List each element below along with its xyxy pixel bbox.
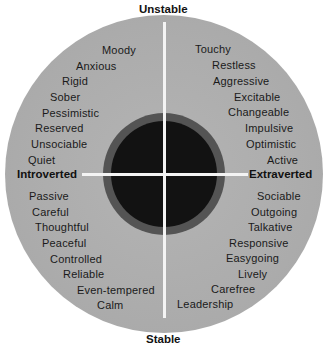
trait-excitable: Excitable bbox=[234, 91, 280, 104]
trait-quiet: Quiet bbox=[28, 154, 55, 167]
trait-active: Active bbox=[267, 154, 298, 167]
axis-label-stable: Stable bbox=[146, 333, 181, 346]
trait-touchy: Touchy bbox=[195, 43, 231, 56]
trait-carefree: Carefree bbox=[211, 283, 255, 296]
trait-sober: Sober bbox=[50, 91, 80, 104]
trait-reserved: Reserved bbox=[35, 122, 84, 135]
trait-outgoing: Outgoing bbox=[251, 206, 297, 219]
horizontal-axis-line bbox=[82, 173, 248, 176]
trait-controlled: Controlled bbox=[50, 253, 102, 266]
trait-responsive: Responsive bbox=[229, 237, 288, 250]
trait-rigid: Rigid bbox=[62, 75, 88, 88]
trait-calm: Calm bbox=[97, 299, 123, 312]
axis-label-extraverted: Extraverted bbox=[249, 168, 312, 181]
axis-label-introverted: Introverted bbox=[17, 168, 77, 181]
trait-even-tempered: Even-tempered bbox=[77, 284, 155, 297]
trait-leadership: Leadership bbox=[177, 298, 233, 311]
trait-sociable: Sociable bbox=[257, 190, 301, 203]
trait-pessimistic: Pessimistic bbox=[42, 107, 99, 120]
trait-thoughtful: Thoughtful bbox=[35, 221, 89, 234]
trait-changeable: Changeable bbox=[228, 106, 289, 119]
trait-lively: Lively bbox=[238, 268, 267, 281]
axis-label-unstable: Unstable bbox=[139, 3, 188, 16]
trait-peaceful: Peaceful bbox=[42, 237, 86, 250]
trait-optimistic: Optimistic bbox=[246, 138, 296, 151]
personality-circle-diagram: Unstable Stable Introverted Extraverted … bbox=[0, 0, 326, 348]
vertical-axis-line bbox=[163, 22, 166, 318]
trait-moody: Moody bbox=[102, 44, 136, 57]
trait-easygoing: Easygoing bbox=[226, 252, 279, 265]
trait-restless: Restless bbox=[212, 59, 256, 72]
trait-careful: Careful bbox=[32, 206, 69, 219]
trait-passive: Passive bbox=[29, 190, 69, 203]
trait-talkative: Talkative bbox=[248, 221, 293, 234]
trait-unsociable: Unsociable bbox=[31, 138, 87, 151]
trait-anxious: Anxious bbox=[76, 60, 117, 73]
trait-reliable: Reliable bbox=[63, 268, 104, 281]
trait-aggressive: Aggressive bbox=[213, 75, 269, 88]
trait-impulsive: Impulsive bbox=[245, 122, 293, 135]
